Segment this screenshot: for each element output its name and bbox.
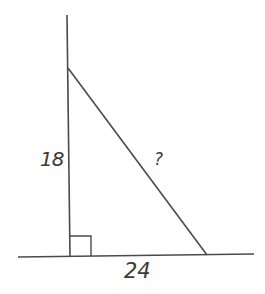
triangle-diagram: 18 ? 24	[0, 0, 265, 294]
hypotenuse-label: ?	[154, 151, 163, 168]
vertical-leg-label: 18	[40, 149, 63, 169]
hypotenuse-line	[68, 68, 207, 255]
horizontal-leg-label: 24	[124, 261, 151, 282]
baseline-line	[18, 254, 254, 257]
vertical-leg-line	[67, 15, 70, 257]
right-angle-marker	[70, 236, 91, 256]
